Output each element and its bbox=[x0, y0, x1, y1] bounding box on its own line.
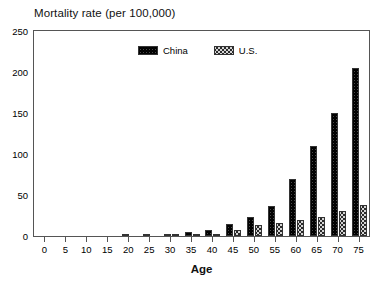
x-axis-tick-label: 35 bbox=[186, 244, 197, 255]
chart-legend: China U.S. bbox=[138, 45, 257, 56]
x-axis-tick-label: 10 bbox=[81, 244, 92, 255]
x-axis-tick-mark bbox=[296, 237, 297, 242]
bar-china-age-25 bbox=[143, 234, 150, 236]
bar-china-age-50 bbox=[247, 217, 254, 236]
x-axis-tick-labels: 051015202530354045505560657075 bbox=[33, 244, 370, 258]
bar-us-age-60 bbox=[297, 220, 304, 236]
bar-china-age-70 bbox=[331, 113, 338, 236]
x-axis-tick-label: 5 bbox=[63, 244, 68, 255]
x-axis-tick-label: 60 bbox=[290, 244, 301, 255]
legend-entry-us: U.S. bbox=[214, 45, 257, 56]
legend-label-us: U.S. bbox=[239, 45, 257, 56]
legend-swatch-china-icon bbox=[138, 46, 158, 55]
x-axis-tick-mark bbox=[170, 237, 171, 242]
x-axis-tick-mark bbox=[44, 237, 45, 242]
bar-china-age-45 bbox=[226, 224, 233, 236]
x-axis-tick-mark bbox=[212, 237, 213, 242]
y-axis-tick-labels: 050100150200250 bbox=[0, 30, 28, 237]
bar-us-age-35 bbox=[193, 234, 200, 236]
x-axis-tick-mark bbox=[191, 237, 192, 242]
x-axis-tick-mark bbox=[317, 237, 318, 242]
x-axis-tick-label: 25 bbox=[144, 244, 155, 255]
x-axis-tick-label: 45 bbox=[228, 244, 239, 255]
bar-china-age-75-peak bbox=[352, 68, 359, 236]
x-axis-tick-label: 50 bbox=[249, 244, 260, 255]
y-axis-tick-label: 50 bbox=[17, 190, 28, 201]
bar-us-age-40 bbox=[213, 234, 220, 236]
y-axis-tick-label: 150 bbox=[12, 108, 28, 119]
bar-us-age-30 bbox=[172, 234, 179, 236]
x-axis-tick-mark bbox=[233, 237, 234, 242]
x-axis-tick-mark bbox=[338, 237, 339, 242]
x-axis-tick-label: 65 bbox=[311, 244, 322, 255]
x-axis-tick-label: 30 bbox=[165, 244, 176, 255]
x-axis-tick-label: 40 bbox=[207, 244, 218, 255]
bar-china-age-60 bbox=[289, 179, 296, 236]
y-axis-tick-label: 100 bbox=[12, 149, 28, 160]
bar-china-age-55 bbox=[268, 206, 275, 236]
bar-us-age-75 bbox=[360, 205, 367, 236]
bar-us-age-70 bbox=[339, 211, 346, 236]
bar-china-age-20 bbox=[122, 234, 129, 236]
legend-swatch-us-icon bbox=[214, 46, 234, 55]
legend-entry-china: China bbox=[138, 45, 188, 56]
x-axis-tick-mark bbox=[107, 237, 108, 242]
bar-us-age-45 bbox=[234, 230, 241, 236]
plot-area bbox=[33, 30, 370, 237]
bar-china-age-30 bbox=[164, 234, 171, 236]
x-axis-tick-mark bbox=[275, 237, 276, 242]
x-axis-title: Age bbox=[33, 263, 370, 275]
x-axis-tick-label: 0 bbox=[42, 244, 47, 255]
bar-us-age-50 bbox=[255, 225, 262, 236]
x-axis-tick-label: 20 bbox=[123, 244, 134, 255]
x-axis-tick-label: 15 bbox=[102, 244, 113, 255]
x-axis-tick-mark bbox=[254, 237, 255, 242]
mortality-rate-bar-chart: Mortality rate (per 100,000) 05010015020… bbox=[0, 0, 388, 289]
bar-china-age-35 bbox=[185, 232, 192, 236]
bar-us-age-65 bbox=[318, 217, 325, 236]
x-axis-tick-label: 55 bbox=[269, 244, 280, 255]
x-axis-tick-mark bbox=[128, 237, 129, 242]
x-axis-tick-marks bbox=[33, 237, 370, 243]
x-axis-tick-mark bbox=[149, 237, 150, 242]
bar-us-age-55 bbox=[276, 223, 283, 236]
y-axis-tick-label: 0 bbox=[23, 231, 28, 242]
x-axis-tick-mark bbox=[359, 237, 360, 242]
x-axis-tick-label: 70 bbox=[332, 244, 343, 255]
legend-label-china: China bbox=[163, 45, 188, 56]
bar-china-age-65 bbox=[310, 146, 317, 236]
x-axis-tick-label: 75 bbox=[353, 244, 364, 255]
bars-layer bbox=[34, 31, 369, 236]
bar-china-age-40 bbox=[205, 230, 212, 236]
x-axis-tick-mark bbox=[86, 237, 87, 242]
x-axis-tick-mark bbox=[65, 237, 66, 242]
y-axis-tick-label: 250 bbox=[12, 26, 28, 37]
chart-title: Mortality rate (per 100,000) bbox=[34, 7, 176, 19]
y-axis-tick-label: 200 bbox=[12, 67, 28, 78]
